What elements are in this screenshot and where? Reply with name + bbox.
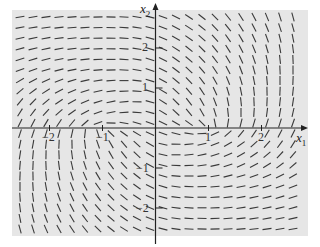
slope-segment bbox=[120, 17, 129, 18]
slope-segment bbox=[81, 17, 90, 18]
x1-label-subscript: 1 bbox=[302, 138, 307, 148]
slope-segment bbox=[120, 112, 129, 113]
slope-segment bbox=[120, 38, 129, 39]
x2-label-subscript: 2 bbox=[146, 9, 151, 19]
x-tick-label: 1 bbox=[205, 131, 211, 143]
slope-segment bbox=[120, 59, 129, 60]
slope-segment bbox=[211, 197, 220, 198]
slope-segment bbox=[254, 108, 255, 117]
slope-segment bbox=[33, 182, 34, 191]
x1-axis-label: x1 bbox=[296, 131, 306, 148]
slope-segment bbox=[185, 197, 194, 198]
slope-segment bbox=[133, 112, 142, 113]
slope-segment bbox=[185, 218, 194, 219]
y-tick-label: 2 bbox=[142, 41, 148, 53]
x2-axis-label: x2 bbox=[140, 2, 150, 19]
slope-segment bbox=[185, 208, 194, 209]
x-tick-label: −2 bbox=[42, 131, 55, 143]
x2-axis-arrow-icon bbox=[153, 3, 159, 10]
slope-segment bbox=[20, 193, 21, 202]
y-tick-label: −1 bbox=[136, 162, 149, 174]
y-tick-label: −2 bbox=[136, 202, 149, 214]
slope-segment bbox=[81, 27, 90, 28]
slope-segment bbox=[107, 80, 116, 81]
slope-segment bbox=[185, 229, 194, 230]
x-tick-label: −1 bbox=[96, 131, 109, 143]
y-tick-label: 1 bbox=[142, 81, 148, 93]
slope-segment bbox=[120, 27, 129, 28]
direction-field-plot bbox=[0, 0, 320, 247]
slope-segment bbox=[224, 229, 233, 230]
slope-segment bbox=[133, 91, 142, 92]
plot-background bbox=[12, 10, 308, 236]
slope-segment bbox=[120, 49, 129, 50]
x-tick-label: 2 bbox=[258, 131, 264, 143]
slope-segment bbox=[81, 38, 90, 39]
